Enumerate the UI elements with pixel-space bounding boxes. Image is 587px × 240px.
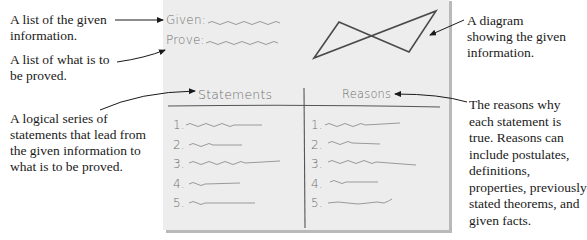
arrow-reasons	[395, 94, 467, 102]
annotation-diagram-line3: information.	[467, 45, 566, 61]
given-squiggle	[208, 22, 280, 25]
arrow-statements	[100, 91, 195, 110]
arrow-prove	[117, 50, 165, 62]
annotation-reasons-line4: include postulates,	[469, 147, 587, 164]
annotation-reasons-line1: The reasons why	[469, 97, 587, 114]
annotation-reasons-line6: properties, previously	[469, 180, 587, 197]
annotation-reasons-line3: true. Reasons can	[469, 130, 587, 147]
annotation-reasons: The reasons why each statement is true. …	[469, 97, 587, 229]
arrow-diagram	[430, 20, 464, 35]
annotation-reasons-line5: definitions,	[469, 163, 587, 180]
column-divider	[304, 88, 305, 228]
bowtie-diagram	[314, 11, 436, 58]
annotation-reasons-line2: each statement is	[469, 114, 587, 131]
annotation-reasons-line8: given facts.	[469, 213, 587, 230]
annotation-diagram-line2: showing the given	[467, 29, 566, 45]
prove-squiggle	[206, 42, 278, 45]
annotation-diagram: A diagram showing the given information.	[467, 13, 566, 61]
annotation-reasons-line7: stated theorems, and	[469, 196, 587, 213]
placeholder-squiggles	[186, 22, 416, 205]
annotation-diagram-line1: A diagram	[467, 13, 566, 29]
